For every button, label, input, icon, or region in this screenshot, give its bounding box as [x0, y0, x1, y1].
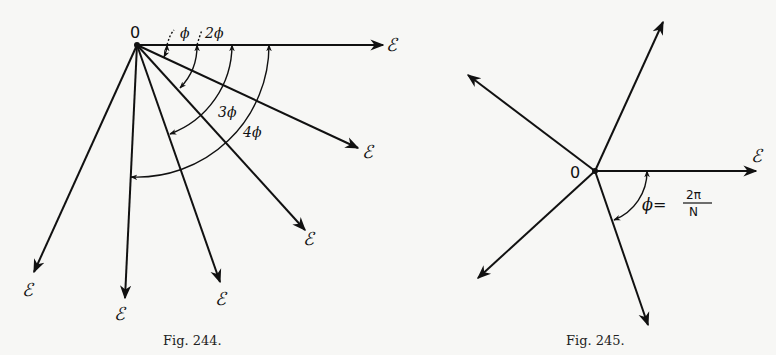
arc-4phi: [131, 45, 269, 177]
emf-label-2: ℰ: [303, 228, 316, 249]
angle-label-3phi: 3ϕ: [218, 104, 237, 120]
emf-label-4: ℰ: [114, 303, 127, 324]
equation-lhs: ϕ=: [642, 195, 666, 214]
caption-fig-244: Fig. 244.: [163, 333, 222, 348]
emf-label-245: ℰ: [751, 145, 764, 166]
emf-label-5: ℰ: [22, 279, 35, 300]
origin-dot-245: [592, 168, 598, 174]
arc-2phi-dash: [197, 30, 202, 45]
equation-denominator: N: [689, 205, 698, 219]
vector-up: [595, 22, 663, 171]
diagram-canvas: 0 ϕ 2ϕ 3ϕ 4ϕ ℰ ℰ ℰ ℰ ℰ ℰ Fig. 244. 0 ℰ ϕ…: [0, 0, 776, 355]
origin-dot-244: [134, 42, 140, 48]
vector-e3: [137, 45, 220, 282]
angle-label-2phi: 2ϕ: [204, 25, 224, 41]
vector-down-left: [478, 171, 595, 278]
angle-label-phi: ϕ: [180, 25, 190, 41]
equation-numerator: 2π: [686, 188, 701, 202]
emf-label-1: ℰ: [362, 141, 375, 162]
arc-phi-dash: [167, 30, 174, 45]
arc-3phi: [170, 45, 232, 134]
emf-label-3: ℰ: [215, 288, 228, 309]
origin-label-244: 0: [130, 23, 140, 42]
origin-label-245: 0: [570, 163, 580, 182]
angle-equation: ϕ= 2π N: [642, 188, 712, 219]
arc-phi: [164, 45, 167, 57]
caption-fig-245: Fig. 245.: [566, 333, 625, 348]
vector-e4: [125, 45, 137, 298]
figure-245: [468, 22, 756, 325]
vector-up-left: [468, 75, 595, 171]
vector-e5: [34, 45, 137, 272]
vector-down: [595, 171, 648, 325]
angle-label-4phi: 4ϕ: [242, 124, 262, 140]
vector-e2: [137, 45, 305, 230]
figure-244: [34, 45, 383, 298]
emf-label-0: ℰ: [386, 34, 399, 55]
